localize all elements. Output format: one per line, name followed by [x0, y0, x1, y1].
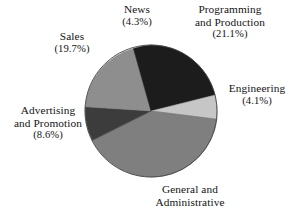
pie-label-news-line1: News [106, 3, 168, 16]
pie-label-programming-and-production: Programming and Production (21.1%) [172, 3, 288, 40]
pie-label-engineering-percent: (4.1%) [219, 95, 295, 107]
pie-chart-graphic [84, 44, 218, 178]
pie-label-advertising-percent: (8.6%) [1, 129, 95, 141]
pie-label-sales-line1: Sales [36, 30, 108, 43]
pie-label-general-line2: Administrative [128, 196, 252, 209]
pie-label-sales-percent: (19.7%) [36, 43, 108, 55]
pie-label-advertising-line1: Advertising [1, 104, 95, 117]
pie-label-programming-line2: and Production [172, 16, 288, 29]
pie-label-general-line1: General and [128, 183, 252, 196]
pie-label-engineering: Engineering (4.1%) [219, 82, 295, 107]
pie-label-sales: Sales (19.7%) [36, 30, 108, 55]
pie-label-programming-percent: (21.1%) [172, 28, 288, 40]
pie-label-advertising-line2: and Promotion [1, 117, 95, 130]
pie-label-news-percent: (4.3%) [106, 16, 168, 28]
pie-svg [84, 44, 218, 178]
pie-label-engineering-line1: Engineering [219, 82, 295, 95]
pie-chart-figure: News (4.3%) Programming and Production (… [0, 0, 295, 217]
pie-label-advertising-and-promotion: Advertising and Promotion (8.6%) [1, 104, 95, 141]
pie-label-news: News (4.3%) [106, 3, 168, 28]
pie-label-programming-line1: Programming [172, 3, 288, 16]
pie-label-general-and-administrative: General and Administrative [128, 183, 252, 208]
